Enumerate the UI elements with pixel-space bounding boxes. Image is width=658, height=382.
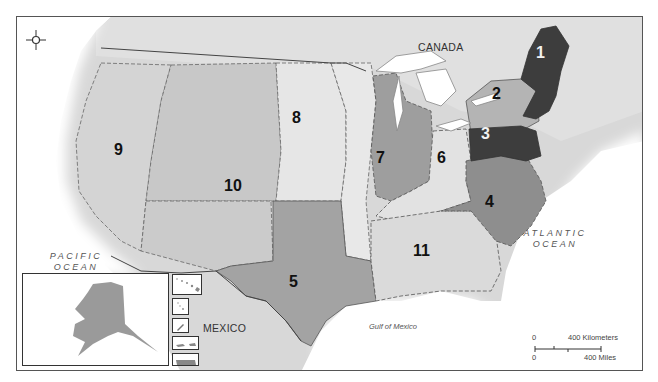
scale-zero-km: 0 (532, 333, 536, 342)
region-1-label: 1 (536, 44, 545, 62)
samoa-inset[interactable] (172, 318, 189, 333)
region-4-label: 4 (485, 193, 494, 211)
region-6-label: 6 (437, 149, 446, 167)
region-10-area[interactable] (146, 63, 281, 201)
region-2-label: 2 (492, 85, 501, 103)
region-9-label: 9 (114, 141, 123, 159)
pacific-line1: PACIFIC (36, 251, 116, 262)
mexico-label: MEXICO (203, 322, 246, 334)
gulf-of-mexico-label: Gulf of Mexico (369, 322, 417, 331)
region-10-label: 10 (224, 177, 242, 195)
scale-km-label: 400 Kilometers (568, 333, 618, 342)
atlantic-ocean-label: ATLANTIC OCEAN (510, 228, 600, 250)
virgin-islands-inset[interactable] (172, 336, 199, 350)
region-11-label: 11 (413, 242, 430, 260)
alaska-shape (23, 274, 168, 365)
mariana-inset[interactable] (172, 298, 189, 315)
region-8-area[interactable] (276, 63, 346, 201)
pacific-line2: OCEAN (36, 262, 116, 273)
map-frame (16, 16, 643, 371)
hawaii-inset[interactable] (172, 274, 202, 295)
region-7-label: 7 (376, 149, 385, 167)
atlantic-line2: OCEAN (510, 239, 600, 250)
scale-zero-mi: 0 (532, 353, 536, 362)
scale-mi-label: 400 Miles (584, 353, 616, 362)
atlantic-line1: ATLANTIC (510, 228, 600, 239)
region-5-label: 5 (289, 273, 298, 291)
puerto-rico-inset[interactable] (172, 353, 199, 366)
region-3-area[interactable] (469, 126, 541, 161)
region-8-label: 8 (292, 109, 301, 127)
alaska-inset[interactable] (22, 273, 169, 366)
region-11-area[interactable] (371, 211, 501, 301)
compass-rose-icon (24, 28, 48, 52)
region-3-label: 3 (481, 125, 490, 143)
canada-label: CANADA (418, 41, 464, 53)
pacific-ocean-label: PACIFIC OCEAN (36, 251, 116, 273)
